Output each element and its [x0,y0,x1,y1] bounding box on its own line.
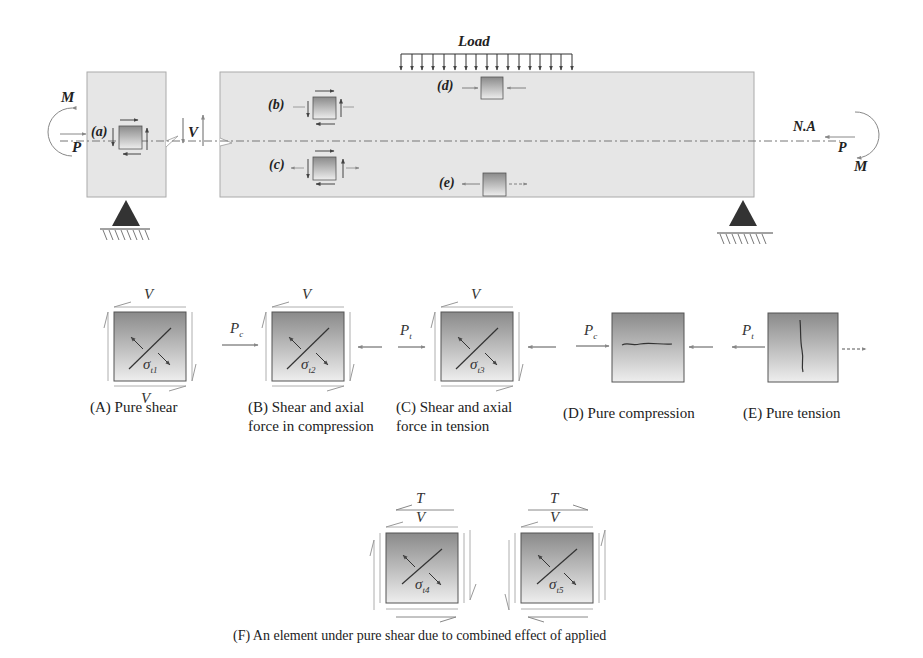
element-F2-stress: σt5 [549,576,563,595]
left-axial-label: P [72,139,81,156]
distributed-load-arrows [401,54,572,70]
beam-diagram-graphics [0,0,923,658]
caption-B-line2: force in compression [248,417,374,436]
element-F1-V: V [416,509,425,526]
element-a [119,126,142,149]
element-F2-V: V [550,509,559,526]
element-A-stress: σt1 [143,356,157,375]
caption-A: (A) Pure shear [90,398,177,417]
caption-D: (D) Pure compression [563,404,695,423]
element-label-e: (e) [439,175,455,191]
right-moment-label: M [854,158,867,175]
force-symbol: P [584,322,593,338]
element-F2-T: T [550,490,558,507]
caption-B-line1: (B) Shear and axial [248,398,364,417]
caption-C-line2: force in tension [396,417,489,436]
element-label-a: (a) [91,124,107,140]
stress-subscript: t2 [308,365,315,375]
element-c [313,157,336,180]
element-C-force: Pt [400,322,412,341]
force-subscript: t [751,331,754,341]
force-subscript: t [409,331,412,341]
force-subscript: c [239,329,243,339]
right-moment-arc [855,112,879,158]
element-label-b: (b) [268,97,284,113]
element-A-graphic [104,302,196,391]
element-b [313,97,336,119]
caption-E: (E) Pure tension [743,404,840,423]
right-axial-label: P [838,140,847,156]
element-d [481,77,503,99]
left-moment-arc [48,108,72,156]
element-B-top-V: V [302,286,311,303]
force-subscript: c [593,331,597,341]
force-symbol: P [400,322,409,338]
element-B-graphic [222,302,382,391]
element-F1-T: T [416,490,424,507]
caption-F: (F) An element under pure shear due to c… [233,626,606,645]
element-F1-stress: σt4 [415,576,429,595]
element-e [483,173,506,196]
force-symbol: P [230,320,239,336]
shear-label: V [188,124,198,141]
load-label: Load [458,33,490,50]
element-A-top-V: V [144,286,153,303]
element-label-c: (c) [269,157,285,173]
stress-subscript: t3 [477,365,484,375]
caption-C-line1: (C) Shear and axial [396,398,512,417]
left-moment-label: M [61,89,74,106]
element-B-force: Pc [230,320,243,339]
element-E-force: Pt [742,322,754,341]
stress-subscript: t5 [556,585,563,595]
element-label-d: (d) [437,78,453,94]
element-C-stress: σt3 [470,356,484,375]
element-C-top-V: V [471,286,480,303]
force-symbol: P [742,322,751,338]
element-B-stress: σt2 [301,356,315,375]
stress-subscript: t1 [150,365,157,375]
element-D-force: Pc [584,322,597,341]
right-support [729,200,757,226]
left-support [112,200,140,226]
stress-subscript: t4 [422,585,429,595]
neutral-axis-label: N.A [793,119,816,135]
element-C-graphic [398,302,556,391]
